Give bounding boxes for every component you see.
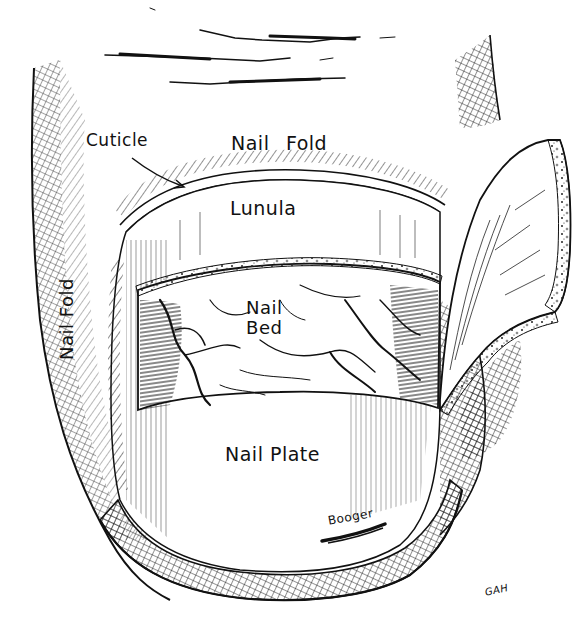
nail-illustration	[0, 0, 586, 635]
label-nail-bed: Nail Bed	[246, 298, 283, 338]
label-nail-bed-line2: Bed	[246, 318, 283, 338]
nail-anatomy-diagram: Cuticle Nail Fold Lunula Nail Bed Nail F…	[0, 0, 586, 635]
skin-wrinkles	[105, 8, 395, 84]
label-nail-bed-line1: Nail	[246, 298, 283, 318]
label-lunula: Lunula	[230, 199, 296, 218]
label-nail-fold-side: Nail Fold	[58, 278, 76, 360]
label-cuticle: Cuticle	[86, 132, 148, 149]
label-nail-fold-top: Nail Fold	[231, 134, 327, 153]
label-nail-plate: Nail Plate	[225, 445, 320, 464]
